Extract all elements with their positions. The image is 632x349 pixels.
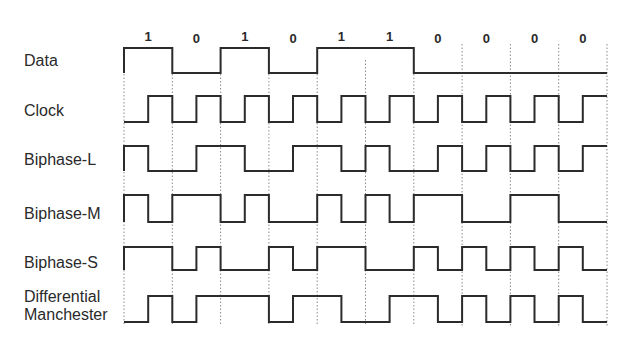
waveform-clock	[124, 96, 607, 122]
waveform-biphase-m	[124, 195, 607, 222]
waveform-biphase-s	[124, 247, 607, 270]
bit-boundary-gridlines	[124, 44, 607, 326]
timing-diagram	[0, 0, 632, 349]
waveform-biphase-l	[124, 146, 607, 171]
